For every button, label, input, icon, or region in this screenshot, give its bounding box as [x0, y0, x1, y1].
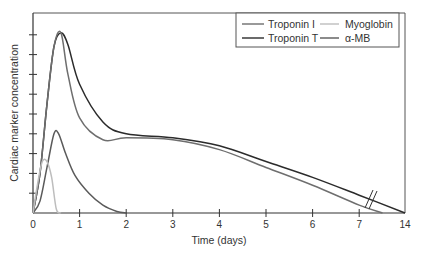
y-axis-label: Cardiac marker concentration	[8, 44, 20, 182]
legend-label-alpha-mb: α-MB	[345, 32, 370, 44]
x-tick-label: 0	[30, 219, 36, 230]
legend-label-myoglobin: Myoglobin	[345, 18, 393, 30]
x-axis-label: Time (days)	[191, 234, 246, 246]
legend-label-troponin-i: Troponin I	[268, 18, 315, 30]
x-tick-label: 6	[310, 219, 316, 230]
x-tick-label: 4	[217, 219, 223, 230]
series-lines	[33, 31, 405, 213]
x-tick-label: 2	[123, 219, 129, 230]
series-line-troponin-i	[33, 31, 383, 213]
x-axis-ticks: 0123456714	[30, 209, 411, 230]
legend-label-troponin-t: Troponin T	[268, 32, 319, 44]
series-line--mb	[33, 130, 126, 213]
chart: 0123456714 Time (days) Cardiac marker co…	[0, 0, 421, 260]
series-line-troponin-t	[33, 33, 405, 213]
x-tick-label: 14	[399, 219, 411, 230]
legend: Troponin I Troponin T Myoglobin α-MB	[236, 13, 399, 47]
x-tick-label: 3	[170, 219, 176, 230]
x-tick-label: 7	[356, 219, 362, 230]
x-tick-label: 1	[77, 219, 83, 230]
x-tick-label: 5	[263, 219, 269, 230]
